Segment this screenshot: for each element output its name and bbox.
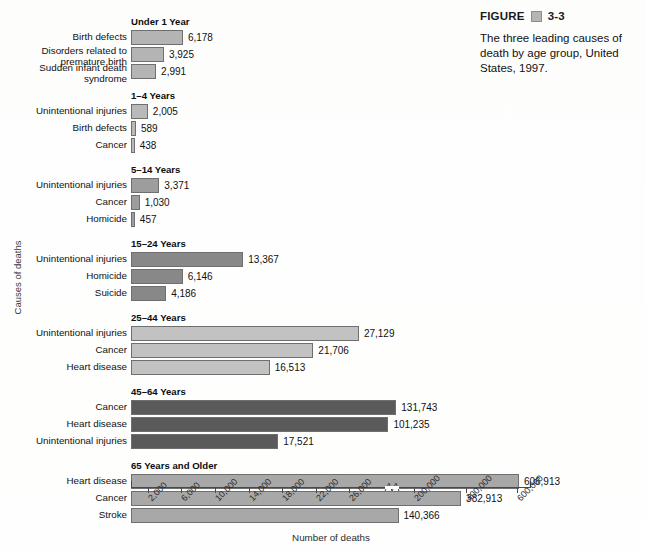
category-label: Homicide <box>1 214 127 225</box>
bar-value-label: 16,513 <box>275 362 306 373</box>
bar-value-label: 21,706 <box>318 345 349 356</box>
category-label: Cancer <box>1 197 127 208</box>
category-label: Unintentional injuries <box>1 436 127 447</box>
category-label: Unintentional injuries <box>1 180 127 191</box>
group-header: 25–44 Years <box>131 312 186 323</box>
group-header: 65 Years and Older <box>131 460 217 471</box>
bar <box>131 138 135 153</box>
bar-value-label: 13,367 <box>248 254 279 265</box>
category-label: Cancer <box>1 345 127 356</box>
x-axis-title: Number of deaths <box>131 532 531 543</box>
category-label: Unintentional injuries <box>1 106 127 117</box>
category-label: Stroke <box>1 510 127 521</box>
category-label: Cancer <box>1 402 127 413</box>
bar <box>131 178 159 193</box>
bar-value-label: 101,235 <box>393 419 429 430</box>
bar-value-label: 4,186 <box>171 288 196 299</box>
category-label: Heart disease <box>1 362 127 373</box>
group-header: 45–64 Years <box>131 386 186 397</box>
category-label: Birth defects <box>1 32 127 43</box>
bar-chart: Causes of deaths Under 1 Year6,178Birth … <box>0 0 470 552</box>
bar-value-label: 3,371 <box>164 180 189 191</box>
bar <box>131 47 164 62</box>
bar <box>131 360 270 375</box>
bar-value-label: 457 <box>140 214 157 225</box>
figure-marker-icon <box>531 11 542 22</box>
category-label: Cancer <box>1 493 127 504</box>
bar-value-label: 6,146 <box>188 271 213 282</box>
bar <box>131 64 156 79</box>
category-label: Cancer <box>1 140 127 151</box>
bar-value-label: 2,005 <box>153 106 178 117</box>
bar-value-label: 131,743 <box>401 402 437 413</box>
category-label: Homicide <box>1 271 127 282</box>
category-label: Unintentional injuries <box>1 254 127 265</box>
bar <box>131 252 243 267</box>
bar-value-label: 6,178 <box>188 32 213 43</box>
category-label: Heart disease <box>1 476 127 487</box>
bar <box>131 121 136 136</box>
bar <box>131 104 148 119</box>
bar-value-label: 3,925 <box>169 49 194 60</box>
group-header: 5–14 Years <box>131 164 180 175</box>
category-label: Suicide <box>1 288 127 299</box>
category-label: Unintentional injuries <box>1 328 127 339</box>
axis-break-icon <box>383 479 401 491</box>
category-label: Heart disease <box>1 419 127 430</box>
group-header: 1–4 Years <box>131 90 175 101</box>
bar-value-label: 1,030 <box>145 197 170 208</box>
bar <box>131 508 399 523</box>
category-label: Sudden infant death syndrome <box>1 63 127 84</box>
bar <box>131 343 313 358</box>
category-label: Birth defects <box>1 123 127 134</box>
bar <box>131 212 135 227</box>
figure-number: 3-3 <box>548 10 565 22</box>
bar <box>131 30 183 45</box>
plot-area: Under 1 Year6,178Birth defects3,925Disor… <box>131 6 531 486</box>
bar <box>131 400 396 415</box>
bar <box>131 286 166 301</box>
bar-value-label: 27,129 <box>364 328 395 339</box>
bar-value-label: 17,521 <box>283 436 314 447</box>
bar-value-label: 589 <box>141 123 158 134</box>
bar-value-label: 140,366 <box>404 510 440 521</box>
bar <box>131 434 278 449</box>
bar-value-label: 2,991 <box>161 66 186 77</box>
bar <box>131 269 183 284</box>
bar <box>131 326 359 341</box>
group-header: 15–24 Years <box>131 238 186 249</box>
group-header: Under 1 Year <box>131 16 190 27</box>
bar-value-label: 438 <box>140 140 157 151</box>
x-axis-left-cap <box>131 481 132 488</box>
bar <box>131 417 388 432</box>
bar <box>131 195 140 210</box>
